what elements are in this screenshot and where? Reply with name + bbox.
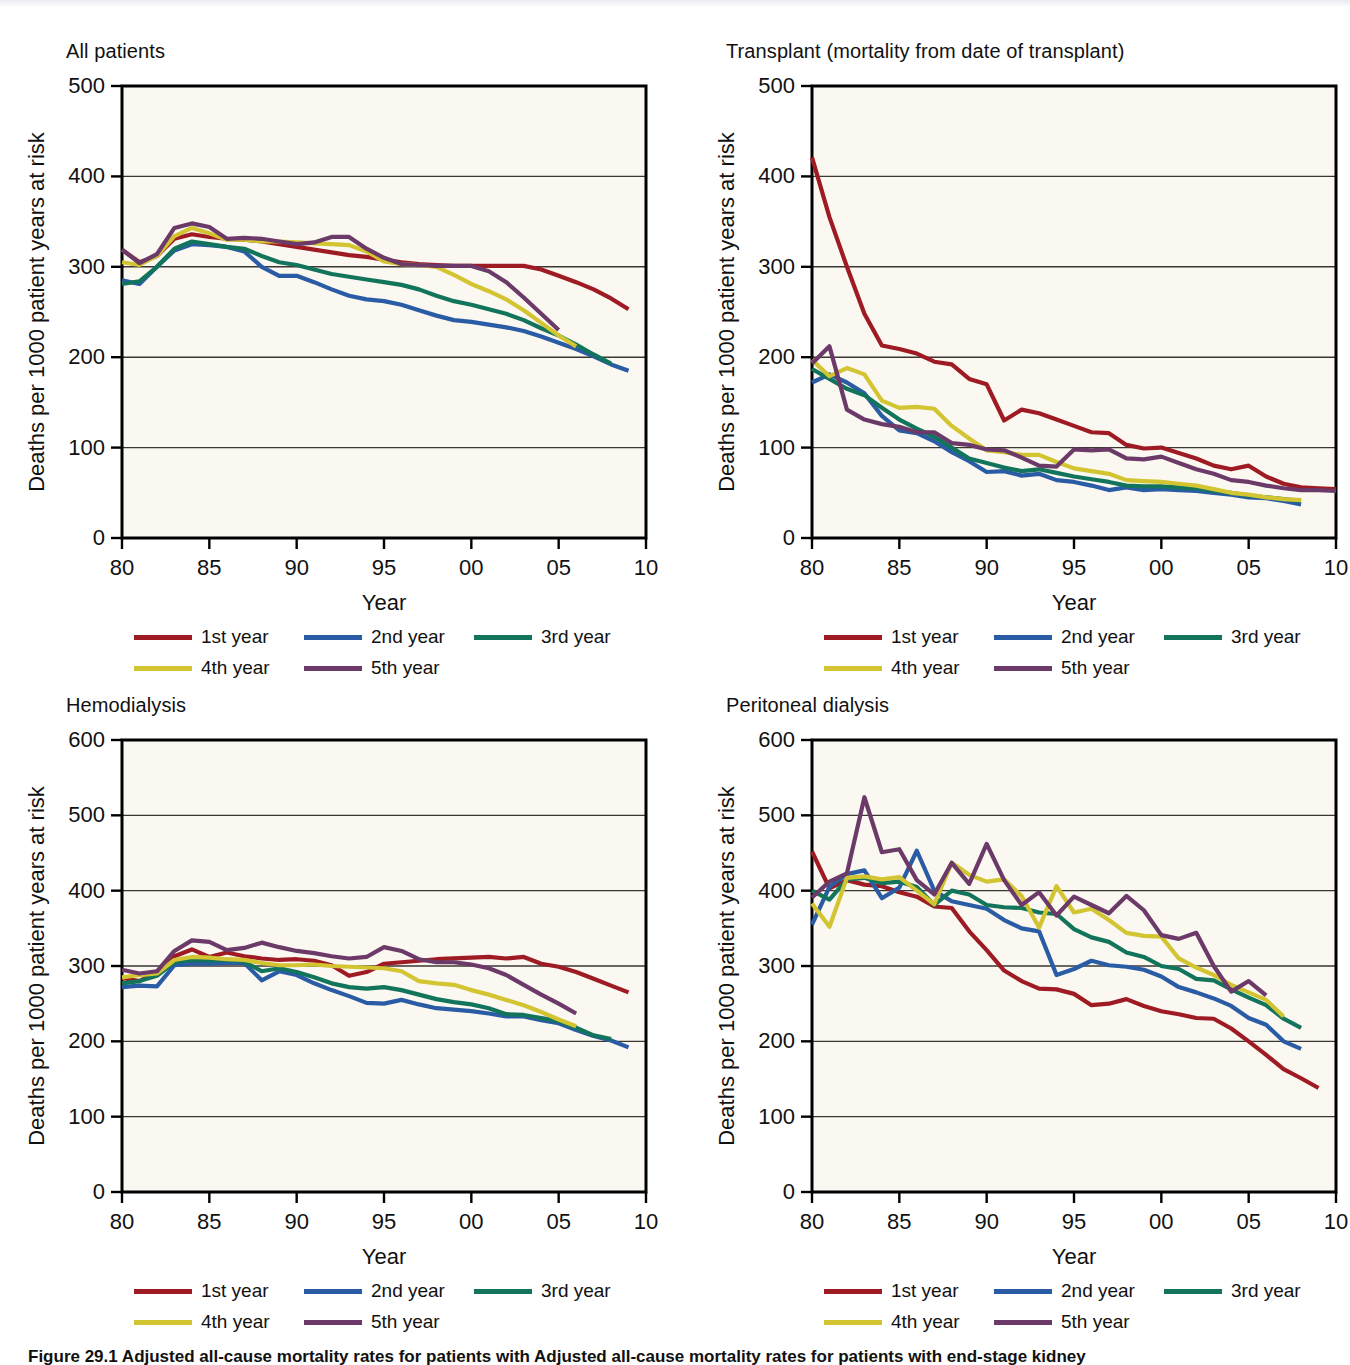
legend-item-4th-year[interactable]: 4th year <box>134 1311 270 1333</box>
panel-all-patients: All patients 010020030040050080859095000… <box>0 14 690 682</box>
x-tick-label: 85 <box>887 1209 911 1234</box>
y-tick-label: 300 <box>68 254 105 279</box>
legend-label: 2nd year <box>1061 626 1135 648</box>
x-tick-label: 90 <box>284 1209 308 1234</box>
y-tick-label: 0 <box>93 525 105 550</box>
legend-swatch-icon <box>304 635 362 640</box>
legend-item-1st-year[interactable]: 1st year <box>824 626 959 648</box>
x-tick-label: 85 <box>197 1209 221 1234</box>
y-axis-title: Deaths per 1000 patient years at risk <box>24 785 49 1146</box>
x-tick-label: 80 <box>800 555 824 580</box>
legend-item-4th-year[interactable]: 4th year <box>134 657 270 679</box>
figure-panel-grid: All patients 010020030040050080859095000… <box>0 14 1350 1334</box>
legend-swatch-icon <box>474 1289 532 1294</box>
legend-swatch-icon <box>304 1320 362 1325</box>
legend-item-5th-year[interactable]: 5th year <box>304 657 440 679</box>
x-tick-label: 05 <box>546 1209 570 1234</box>
y-tick-label: 300 <box>758 254 795 279</box>
legend-label: 1st year <box>891 1280 959 1302</box>
legend-item-1st-year[interactable]: 1st year <box>824 1280 959 1302</box>
legend-swatch-icon <box>304 666 362 671</box>
legend-label: 2nd year <box>1061 1280 1135 1302</box>
legend-item-5th-year[interactable]: 5th year <box>994 657 1130 679</box>
legend-label: 5th year <box>371 1311 440 1333</box>
legend-swatch-icon <box>994 1289 1052 1294</box>
y-tick-label: 600 <box>68 727 105 752</box>
y-tick-label: 500 <box>758 802 795 827</box>
legend-item-3rd-year[interactable]: 3rd year <box>1164 626 1301 648</box>
legend-swatch-icon <box>304 1289 362 1294</box>
legend-label: 5th year <box>1061 657 1130 679</box>
legend-item-3rd-year[interactable]: 3rd year <box>474 1280 611 1302</box>
legend-item-2nd-year[interactable]: 2nd year <box>994 1280 1135 1302</box>
legend-label: 4th year <box>201 1311 270 1333</box>
x-axis-title: Year <box>362 1244 406 1269</box>
y-tick-label: 400 <box>758 163 795 188</box>
x-tick-label: 05 <box>1236 555 1260 580</box>
chart-svg-hemodialysis: 010020030040050060080859095000510YearDea… <box>0 682 690 1350</box>
scan-artifact-bar <box>0 0 1350 7</box>
plot-background <box>122 86 646 538</box>
x-tick-label: 10 <box>1324 1209 1348 1234</box>
legend-swatch-icon <box>824 1320 882 1325</box>
legend-item-4th-year[interactable]: 4th year <box>824 657 960 679</box>
y-axis-title: Deaths per 1000 patient years at risk <box>24 131 49 492</box>
y-tick-label: 200 <box>68 344 105 369</box>
x-tick-label: 00 <box>459 555 483 580</box>
panel-transplant: Transplant (mortality from date of trans… <box>690 14 1350 682</box>
legend-swatch-icon <box>1164 1289 1222 1294</box>
y-axis-title: Deaths per 1000 patient years at risk <box>714 785 739 1146</box>
y-tick-label: 200 <box>758 344 795 369</box>
x-tick-label: 00 <box>1149 1209 1173 1234</box>
x-tick-label: 80 <box>800 1209 824 1234</box>
legend-label: 3rd year <box>541 1280 611 1302</box>
panel-peritoneal-dialysis: Peritoneal dialysis 01002003004005006008… <box>690 682 1350 1334</box>
y-tick-label: 200 <box>68 1028 105 1053</box>
x-tick-label: 10 <box>634 1209 658 1234</box>
y-tick-label: 500 <box>68 802 105 827</box>
legend-label: 2nd year <box>371 626 445 648</box>
x-tick-label: 05 <box>546 555 570 580</box>
legend-swatch-icon <box>994 666 1052 671</box>
legend-label: 5th year <box>371 657 440 679</box>
legend-swatch-icon <box>134 1320 192 1325</box>
y-tick-label: 400 <box>68 163 105 188</box>
legend-label: 3rd year <box>1231 1280 1301 1302</box>
legend-item-2nd-year[interactable]: 2nd year <box>304 1280 445 1302</box>
legend-item-2nd-year[interactable]: 2nd year <box>994 626 1135 648</box>
x-tick-label: 10 <box>634 555 658 580</box>
legend-item-5th-year[interactable]: 5th year <box>994 1311 1130 1333</box>
x-tick-label: 80 <box>110 555 134 580</box>
legend-item-3rd-year[interactable]: 3rd year <box>1164 1280 1301 1302</box>
chart-svg-peritoneal-dialysis: 010020030040050060080859095000510YearDea… <box>690 682 1350 1350</box>
legend-label: 4th year <box>891 1311 960 1333</box>
legend-item-2nd-year[interactable]: 2nd year <box>304 626 445 648</box>
legend-label: 5th year <box>1061 1311 1130 1333</box>
legend-label: 3rd year <box>541 626 611 648</box>
legend-label: 1st year <box>201 1280 269 1302</box>
x-tick-label: 95 <box>372 1209 396 1234</box>
x-tick-label: 95 <box>1062 555 1086 580</box>
y-tick-label: 400 <box>758 878 795 903</box>
y-tick-label: 100 <box>758 435 795 460</box>
legend-swatch-icon <box>994 1320 1052 1325</box>
legend-swatch-icon <box>134 666 192 671</box>
y-tick-label: 100 <box>758 1104 795 1129</box>
y-tick-label: 100 <box>68 1104 105 1129</box>
legend-item-5th-year[interactable]: 5th year <box>304 1311 440 1333</box>
legend-item-3rd-year[interactable]: 3rd year <box>474 626 611 648</box>
legend-swatch-icon <box>1164 635 1222 640</box>
legend-item-4th-year[interactable]: 4th year <box>824 1311 960 1333</box>
legend-item-1st-year[interactable]: 1st year <box>134 626 269 648</box>
y-tick-label: 500 <box>68 73 105 98</box>
legend-label: 1st year <box>891 626 959 648</box>
x-tick-label: 85 <box>197 555 221 580</box>
legend-swatch-icon <box>824 666 882 671</box>
legend-item-1st-year[interactable]: 1st year <box>134 1280 269 1302</box>
x-tick-label: 05 <box>1236 1209 1260 1234</box>
legend-swatch-icon <box>824 1289 882 1294</box>
x-tick-label: 85 <box>887 555 911 580</box>
x-tick-label: 10 <box>1324 555 1348 580</box>
legend-swatch-icon <box>474 635 532 640</box>
legend-swatch-icon <box>134 1289 192 1294</box>
